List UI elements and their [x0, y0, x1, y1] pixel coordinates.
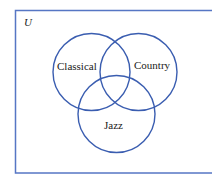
universe-box	[16, 11, 213, 174]
classical-label: Classical	[57, 60, 97, 72]
venn-diagram: U Classical Country Jazz	[0, 0, 212, 177]
universe-label: U	[24, 16, 33, 28]
jazz-label: Jazz	[104, 119, 123, 131]
country-circle	[100, 34, 177, 111]
country-label: Country	[134, 59, 171, 71]
classical-circle	[53, 34, 130, 111]
jazz-circle	[78, 76, 155, 153]
